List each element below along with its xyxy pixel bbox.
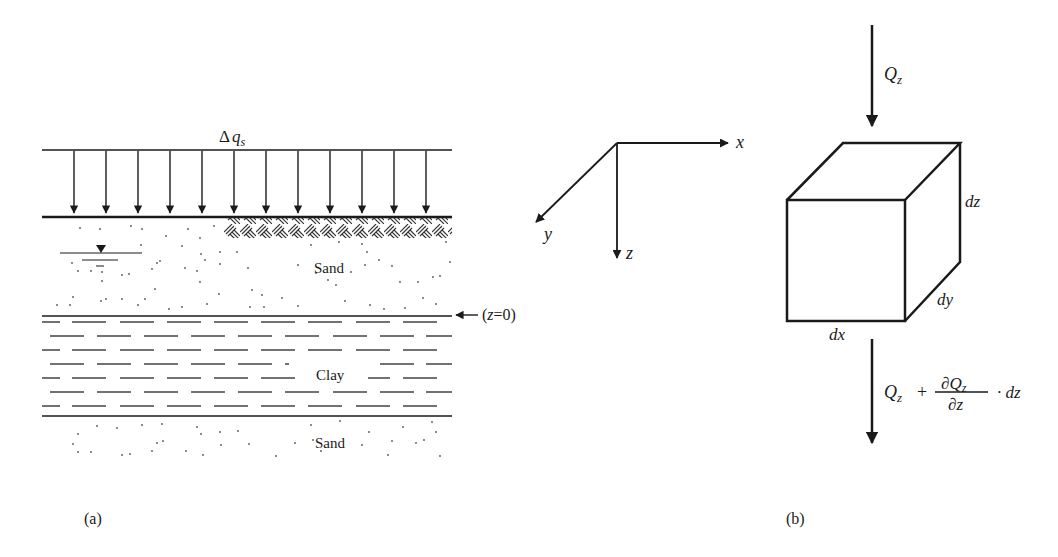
cube-top-face — [787, 143, 960, 200]
caption-a: (a) — [84, 510, 102, 528]
panel-b: Qz dz dy dx Qz + ∂Qz ∂z · dz (b) — [786, 25, 1021, 528]
y-axis-label: y — [542, 224, 552, 244]
clay-dashes — [42, 322, 452, 406]
svg-text:+: + — [917, 382, 927, 402]
datum-label: (z=0) — [482, 306, 516, 324]
svg-text:Qz: Qz — [884, 382, 902, 405]
lower-sand-label: Sand — [315, 435, 346, 451]
y-axis-arrow — [536, 143, 617, 222]
edge-dz-label: dz — [965, 192, 981, 211]
outflow-expression: Qz + ∂Qz ∂z · dz — [884, 374, 1021, 414]
caption-b: (b) — [786, 510, 805, 528]
upper-sand-label: Sand — [314, 260, 345, 276]
svg-text:∂z: ∂z — [948, 395, 963, 414]
water-table-icon — [96, 245, 106, 253]
soil-element-cube — [787, 143, 960, 321]
fill-hatch — [224, 218, 452, 238]
clay-label: Clay — [316, 367, 345, 383]
lower-sand-dots — [72, 420, 441, 457]
edge-dy-label: dy — [937, 290, 954, 309]
edge-dx-label: dx — [829, 325, 846, 344]
panel-a: Δqs — [42, 127, 516, 528]
load-arrows — [74, 151, 426, 213]
inflow-label: Qz — [884, 64, 902, 87]
z-axis-label: z — [625, 243, 633, 263]
svg-text:· dz: · dz — [997, 383, 1021, 402]
consolidation-diagram: Δqs — [0, 0, 1058, 557]
x-axis-label: x — [735, 132, 744, 152]
coordinate-axes: x y z — [536, 132, 744, 263]
cube-front-face — [787, 200, 905, 321]
load-label: Δqs — [219, 127, 245, 149]
